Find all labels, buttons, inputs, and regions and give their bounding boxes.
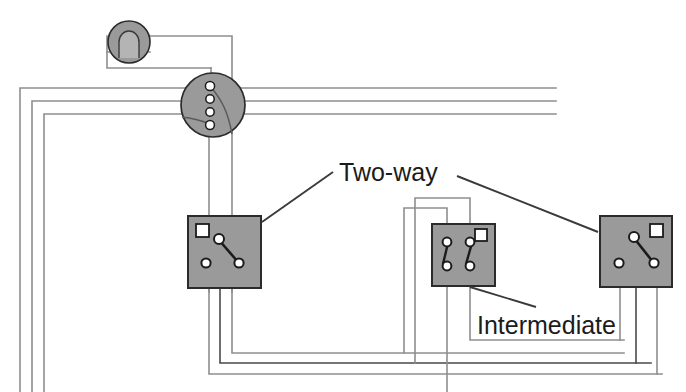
two-way-switch-right	[600, 216, 672, 287]
switch-right-marker-icon	[650, 224, 663, 237]
wiring-diagram: Two-way Intermediate	[0, 0, 686, 392]
switch-middle-terminal-top-left	[443, 238, 452, 247]
switch-right-terminal-l1	[614, 258, 623, 267]
junction-terminal-1	[205, 81, 214, 90]
intermediate-switch	[432, 224, 495, 286]
ceiling-lamp	[108, 21, 150, 63]
switch-right-terminal-l2	[649, 258, 658, 267]
two-way-switch-left	[188, 216, 261, 288]
label-two-way: Two-way	[339, 160, 438, 185]
switch-middle-terminal-bottom-left	[443, 262, 452, 271]
switch-left-terminal-l1	[201, 258, 210, 267]
label-intermediate: Intermediate	[477, 313, 616, 338]
switch-middle-marker-icon	[475, 229, 487, 241]
switch-left-marker-icon	[196, 224, 209, 237]
switch-left-terminal-common	[214, 234, 224, 244]
callout-leader-lines	[262, 172, 598, 307]
junction-box	[181, 73, 245, 137]
lamp-filament-icon	[119, 31, 139, 58]
switch-middle-terminal-bottom-right	[466, 262, 475, 271]
leader-two-way-left	[262, 172, 333, 222]
switch-left-terminal-l2	[234, 258, 243, 267]
junction-terminal-4	[206, 121, 215, 130]
leader-intermediate	[470, 287, 536, 307]
junction-terminal-3	[206, 108, 214, 116]
switch-right-terminal-common	[629, 232, 639, 242]
junction-terminal-2	[206, 95, 214, 103]
switch-middle-terminal-top-right	[466, 238, 475, 247]
